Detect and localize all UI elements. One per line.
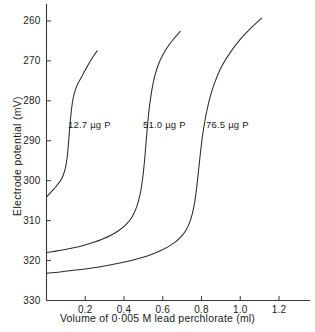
curve-annotation-1: 12.7 µg P xyxy=(68,119,111,130)
x-axis-title: Volume of 0·005 M lead perchlorate (ml) xyxy=(0,312,315,324)
curve-annotation-3: 76.5 µg P xyxy=(206,119,249,130)
y-axis-tick-label: 330 xyxy=(15,295,41,306)
titration-curve-2 xyxy=(47,31,181,252)
plot-area xyxy=(0,0,315,332)
y-axis-tick-label: 260 xyxy=(15,15,41,26)
y-axis-tick-label: 270 xyxy=(15,55,41,66)
y-axis-title: Electrode potential (mV) xyxy=(11,76,23,236)
curve-annotation-2: 51.0 µg P xyxy=(143,119,186,130)
axes xyxy=(47,4,311,301)
chart-figure: 260270280290300310320330 0.20.40.60.81.0… xyxy=(0,0,315,332)
titration-curve-3 xyxy=(47,18,262,273)
data-curves xyxy=(47,18,262,273)
y-axis-tick-label: 320 xyxy=(15,255,41,266)
